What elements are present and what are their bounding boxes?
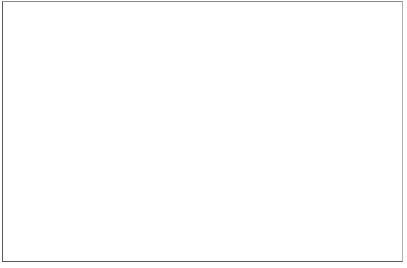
puzzle-frame <box>2 1 403 262</box>
